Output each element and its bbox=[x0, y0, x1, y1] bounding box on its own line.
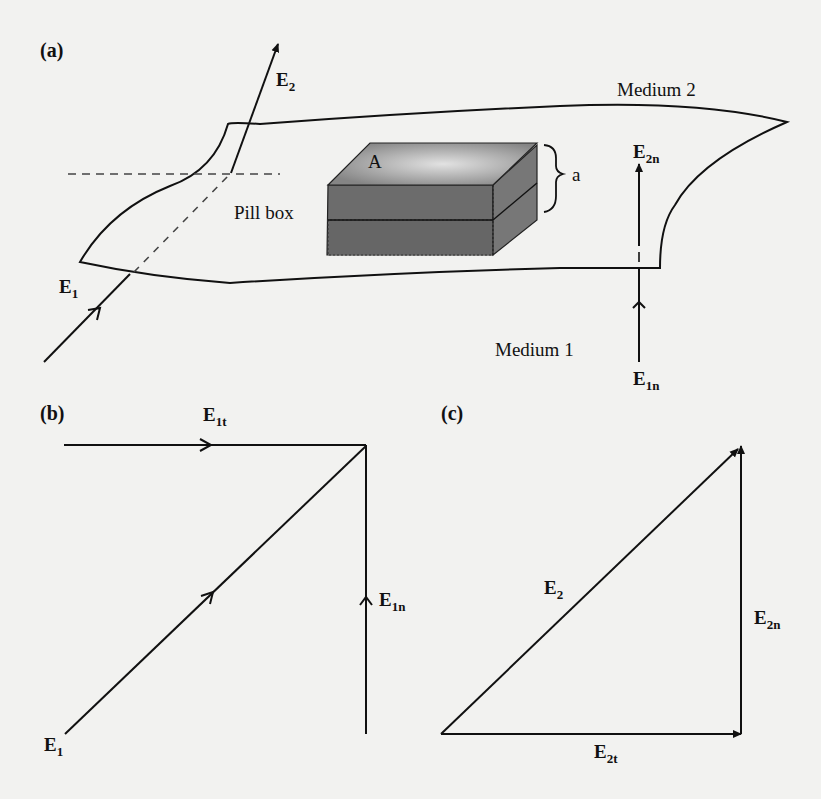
e2n-c-label: E2n bbox=[754, 608, 780, 631]
e1-label: E1 bbox=[59, 277, 78, 300]
area-label: A bbox=[368, 152, 382, 171]
e1-diagonal-line bbox=[65, 446, 366, 734]
e1-b-label: E1 bbox=[44, 735, 63, 758]
e1t-label: E1t bbox=[203, 405, 227, 428]
e2-vector-arrow bbox=[231, 44, 278, 173]
height-brace-icon bbox=[544, 145, 563, 212]
panel-label-a: (a) bbox=[40, 40, 63, 60]
medium-1-label: Medium 1 bbox=[495, 340, 574, 359]
e2-label: E2 bbox=[276, 70, 295, 93]
e2n-label: E2n bbox=[633, 142, 659, 165]
pill-box bbox=[327, 143, 537, 255]
e2-c-diagonal-arrow bbox=[441, 449, 738, 734]
e2t-label: E2t bbox=[594, 742, 618, 765]
e1-vector-arrow bbox=[44, 274, 130, 362]
panel-label-b: (b) bbox=[40, 403, 64, 423]
height-label: a bbox=[572, 165, 580, 184]
e1n-label: E1n bbox=[633, 369, 659, 392]
pill-box-label: Pill box bbox=[234, 203, 294, 222]
e1-dashed-extension bbox=[134, 174, 230, 272]
boundary-conditions-figure bbox=[0, 0, 821, 799]
e1n-b-label: E1n bbox=[379, 590, 405, 613]
panel-label-c: (c) bbox=[441, 403, 463, 423]
e2-c-label: E2 bbox=[544, 578, 563, 601]
medium-2-label: Medium 2 bbox=[617, 80, 696, 99]
